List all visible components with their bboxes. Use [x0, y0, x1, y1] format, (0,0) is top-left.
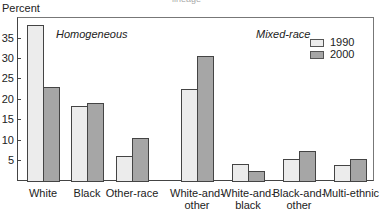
y-tick-label: 10 — [0, 135, 14, 146]
section-label-homogeneous: Homogeneous — [56, 28, 128, 40]
bar-multi-ethnic-1990 — [334, 165, 351, 182]
bar-white-and-black-1990 — [232, 164, 249, 182]
bar-white-and-other-1990 — [181, 89, 198, 182]
y-tick-5 — [17, 160, 21, 161]
legend-swatch-2000 — [310, 51, 324, 59]
section-label-mixed-race: Mixed-race — [256, 28, 310, 40]
y-tick-10 — [17, 140, 21, 141]
y-tick-30 — [17, 58, 21, 59]
y-tick-label: 25 — [0, 73, 14, 84]
bar-white-and-other-2000 — [197, 56, 214, 182]
y-tick-label: 20 — [0, 94, 14, 105]
category-label-multi-ethnic: Multi-ethnic — [318, 187, 384, 199]
y-tick-label: 15 — [0, 114, 14, 125]
y-tick-15 — [17, 119, 21, 120]
y-tick-label: 30 — [0, 53, 14, 64]
legend-swatch-1990 — [310, 39, 324, 47]
category-label-other-race: Other-race — [102, 187, 162, 199]
y-tick-label: 5 — [0, 155, 14, 166]
bar-white-1990 — [27, 25, 44, 182]
clipped-title-fragment: lineage — [172, 0, 201, 4]
y-tick-20 — [17, 99, 21, 100]
y-tick-25 — [17, 78, 21, 79]
y-axis-title: Percent — [2, 2, 40, 14]
bar-black-1990 — [71, 106, 88, 182]
bar-black-2000 — [87, 103, 104, 182]
legend-label-2000: 2000 — [330, 49, 354, 60]
bar-black-and-other-2000 — [299, 151, 316, 182]
bar-other-race-1990 — [116, 156, 133, 182]
bar-white-and-black-2000 — [248, 171, 265, 182]
bar-white-2000 — [43, 87, 60, 182]
bar-black-and-other-1990 — [283, 159, 300, 182]
bar-multi-ethnic-2000 — [350, 159, 367, 182]
y-tick-35 — [17, 38, 21, 39]
bar-other-race-2000 — [132, 138, 149, 182]
legend-label-1990: 1990 — [330, 37, 354, 48]
y-tick-label: 35 — [0, 33, 14, 44]
